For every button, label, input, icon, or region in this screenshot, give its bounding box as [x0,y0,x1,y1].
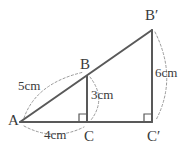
geometry-figure: A B C B′ C′ 5cm 4cm 3cm 6cm [0,0,196,153]
measurement-label-4cm: 4cm [44,128,66,141]
vertex-label-b-prime: B′ [145,8,158,23]
measurement-label-3cm: 3cm [91,88,113,101]
vertex-label-a: A [8,113,19,128]
vertex-label-c-prime: C′ [147,129,160,144]
measurement-label-6cm: 6cm [155,66,177,79]
right-angle-at-Cprime [144,114,152,122]
measurement-label-5cm: 5cm [18,79,40,92]
vertex-label-c: C [84,129,94,144]
right-angle-at-C [79,114,87,122]
triangle-edges [20,30,152,122]
right-angle-markers [79,114,152,122]
measurement-arcs [24,32,167,134]
vertex-label-b: B [80,57,90,72]
